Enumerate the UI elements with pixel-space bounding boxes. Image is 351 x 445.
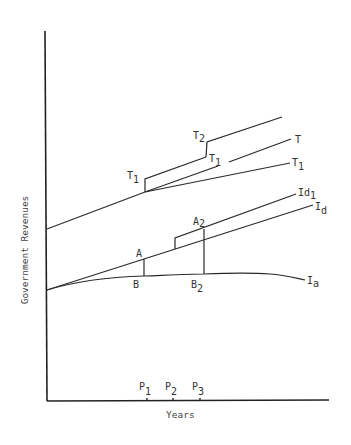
t-base-line <box>47 192 145 229</box>
t-line-upper-segment <box>229 139 291 162</box>
y-axis-label: Government Revenues <box>19 196 30 305</box>
x-axis <box>47 400 329 401</box>
label-t2: T2 <box>193 130 205 144</box>
label-id: Id <box>315 201 327 216</box>
label-p3: P3 <box>192 381 204 397</box>
x-axis-label: Years <box>166 409 195 420</box>
label-b: B <box>133 279 139 290</box>
label-t1-mid: T1 <box>209 153 221 168</box>
tick-p1 <box>146 398 148 400</box>
label-a: A <box>136 248 142 259</box>
tick-p3 <box>199 398 201 400</box>
t1-step-line <box>145 157 206 192</box>
ia-curve <box>47 273 305 290</box>
label-b2: B2 <box>191 279 203 294</box>
label-t: T <box>295 134 301 145</box>
label-t1-right: T1 <box>292 157 304 172</box>
label-t1-left: T1 <box>127 170 139 185</box>
label-ia: Ia <box>307 275 319 289</box>
label-p2: P2 <box>165 381 177 397</box>
tick-p2 <box>172 398 174 400</box>
id-line <box>47 205 313 290</box>
label-p1: P1 <box>139 381 151 397</box>
y-axis <box>45 31 47 401</box>
revenue-diagram: T2 T T1 T1 T1 Id1 Id Ia A A2 B B2 P1 P2 … <box>0 0 351 445</box>
label-id1: Id1 <box>298 187 316 201</box>
label-a2: A2 <box>193 216 205 229</box>
t2-step-line <box>206 117 282 157</box>
